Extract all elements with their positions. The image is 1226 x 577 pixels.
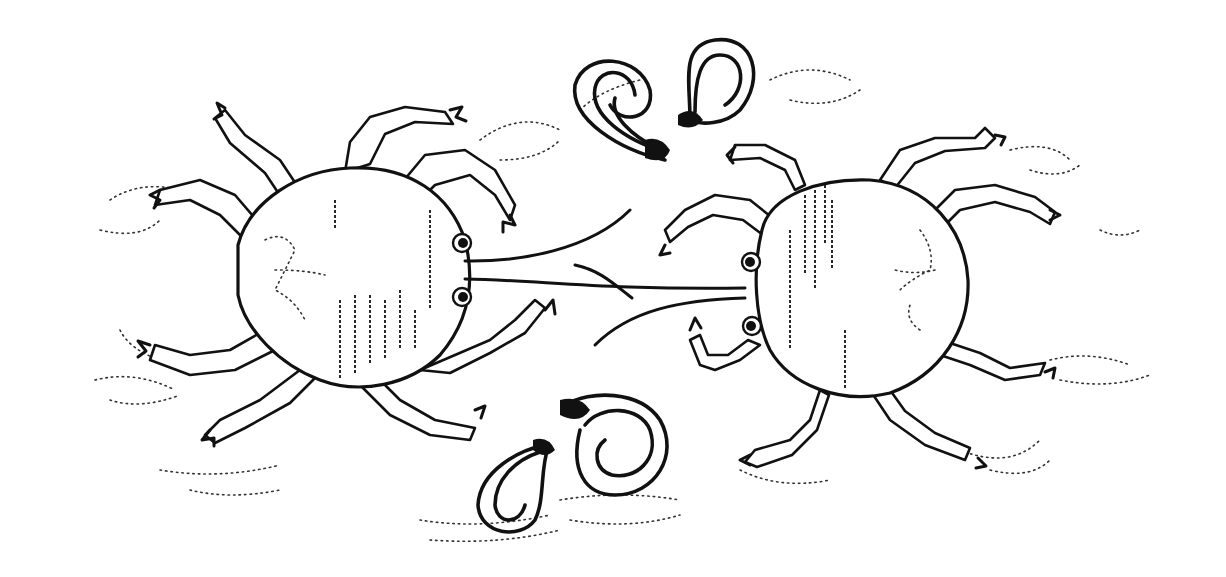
crab-illustration	[0, 0, 1226, 577]
crab-right-carapace	[756, 180, 968, 397]
coil-pair-top	[575, 40, 754, 161]
crab-left	[138, 103, 555, 446]
coil-pair-bottom	[478, 395, 667, 532]
crab-left-carapace	[238, 168, 470, 387]
illustration-canvas	[0, 0, 1226, 577]
